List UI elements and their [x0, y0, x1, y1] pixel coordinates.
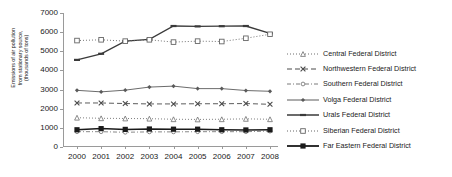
- data-point-marker: [243, 116, 248, 121]
- y-tick-label: 2000: [40, 105, 58, 113]
- legend-key-icon: [286, 140, 320, 152]
- y-axis-title: Emissions of air pollution from stationa…: [10, 0, 30, 125]
- data-point-marker: [195, 117, 200, 122]
- data-point-marker: [75, 115, 80, 120]
- x-tick-label: 2004: [165, 152, 183, 161]
- data-point-marker: [171, 25, 177, 27]
- data-point-marker: [244, 36, 249, 41]
- data-point-marker: [99, 90, 103, 94]
- data-point-marker: [196, 87, 200, 91]
- data-point-marker: [219, 25, 225, 27]
- legend-item-label: Volga Federal District: [323, 96, 391, 104]
- legend-key-icon: [286, 63, 320, 75]
- data-point-marker: [74, 59, 80, 61]
- data-point-marker: [301, 128, 306, 133]
- legend-item-2[interactable]: Northwestern Federal District: [286, 61, 452, 76]
- data-point-marker: [99, 38, 104, 43]
- chart-legend: Central Federal DistrictNorthwestern Fed…: [286, 46, 452, 154]
- data-point-marker: [98, 53, 104, 55]
- y-tick-label: 4000: [40, 66, 58, 74]
- data-point-marker: [123, 39, 128, 44]
- data-point-marker: [243, 127, 248, 132]
- series-6: [75, 32, 273, 44]
- series-layer: [63, 13, 278, 147]
- y-tick-mark: [60, 147, 63, 148]
- data-point-marker: [171, 117, 176, 122]
- legend-key-icon: [286, 78, 320, 90]
- legend-item-label: Northwestern Federal District: [323, 65, 416, 73]
- y-tick-label: 1000: [40, 124, 58, 132]
- legend-item-5[interactable]: Urals Federal District: [286, 108, 452, 123]
- x-tick-label: 2003: [140, 152, 158, 161]
- data-point-marker: [171, 40, 176, 45]
- legend-item-7[interactable]: Far Eastern Federal District: [286, 138, 452, 153]
- data-point-marker: [147, 38, 152, 43]
- data-point-marker: [123, 88, 127, 92]
- data-point-marker: [300, 114, 306, 116]
- data-point-marker: [267, 127, 272, 132]
- legend-item-label: Siberian Federal District: [323, 127, 400, 135]
- data-point-marker: [268, 102, 273, 107]
- data-point-marker: [300, 143, 305, 148]
- legend-item-label: Far Eastern Federal District: [323, 142, 411, 150]
- data-point-marker: [195, 25, 201, 27]
- data-point-marker: [171, 127, 176, 132]
- legend-key-icon: [286, 125, 320, 137]
- legend-key-icon: [286, 48, 320, 60]
- data-point-marker: [123, 116, 128, 121]
- data-point-marker: [219, 127, 224, 132]
- data-point-marker: [220, 87, 224, 91]
- data-point-marker: [171, 84, 175, 88]
- series-2: [75, 101, 273, 107]
- data-point-marker: [219, 117, 224, 122]
- legend-item-label: Central Federal District: [323, 50, 397, 58]
- x-tick-label: 2008: [261, 152, 279, 161]
- data-point-marker: [123, 127, 128, 132]
- data-point-marker: [99, 126, 104, 131]
- data-point-marker: [75, 88, 79, 92]
- data-point-marker: [195, 127, 200, 132]
- data-point-marker: [219, 39, 224, 44]
- y-tick-label: 5000: [40, 47, 58, 55]
- data-point-marker: [147, 126, 152, 131]
- data-point-marker: [301, 83, 305, 87]
- series-4: [75, 84, 272, 94]
- legend-item-1[interactable]: Central Federal District: [286, 46, 452, 61]
- data-point-marker: [195, 39, 200, 44]
- legend-key-icon: [286, 109, 320, 121]
- x-tick-label: 2000: [68, 152, 86, 161]
- legend-item-label: Urals Federal District: [323, 111, 390, 119]
- data-point-marker: [268, 32, 273, 37]
- y-tick-label: 3000: [40, 86, 58, 94]
- y-tick-label: 6000: [40, 28, 58, 36]
- data-point-marker: [301, 98, 305, 102]
- chart-figure: Emissions of air pollution from stationa…: [0, 0, 452, 177]
- data-point-marker: [99, 116, 104, 121]
- series-1: [75, 115, 273, 122]
- y-tick-label: 7000: [40, 9, 58, 17]
- data-point-marker: [244, 88, 248, 92]
- data-point-marker: [268, 117, 273, 122]
- data-point-marker: [147, 116, 152, 121]
- data-point-marker: [268, 89, 272, 93]
- data-point-marker: [243, 25, 249, 27]
- data-point-marker: [301, 51, 306, 56]
- legend-item-4[interactable]: Volga Federal District: [286, 92, 452, 107]
- x-tick-label: 2007: [237, 152, 255, 161]
- x-tick-label: 2006: [213, 152, 231, 161]
- data-point-marker: [75, 38, 80, 43]
- legend-key-icon: [286, 94, 320, 106]
- y-tick-label: 0: [54, 143, 58, 151]
- x-tick-label: 2002: [116, 152, 134, 161]
- plot-area: 01000200030004000500060007000 2000200120…: [63, 13, 278, 147]
- x-tick-label: 2001: [92, 152, 110, 161]
- data-point-marker: [74, 127, 79, 132]
- x-tick-label: 2005: [189, 152, 207, 161]
- legend-item-6[interactable]: Siberian Federal District: [286, 123, 452, 138]
- legend-item-label: Southern Federal District: [323, 80, 403, 88]
- legend-item-3[interactable]: Southern Federal District: [286, 77, 452, 92]
- data-point-marker: [147, 85, 151, 89]
